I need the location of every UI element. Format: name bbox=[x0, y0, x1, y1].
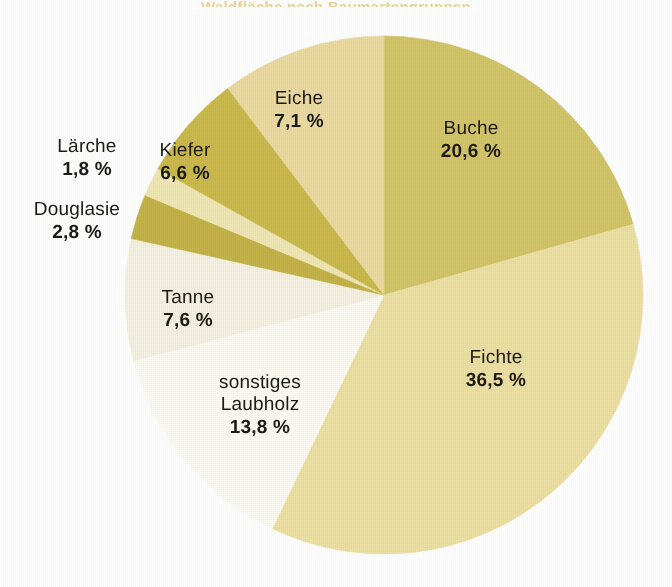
pie-slice-group bbox=[125, 36, 643, 554]
pie-svg bbox=[0, 0, 672, 587]
pie-chart: Waldfläche nach Baumartengruppen Buche 2… bbox=[0, 0, 672, 587]
